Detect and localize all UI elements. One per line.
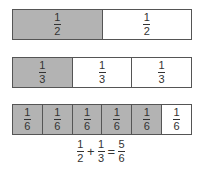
sixths-bar: 1 6 1 6 1 6 1 6 1 6 1: [12, 104, 192, 135]
denominator: 6: [119, 153, 125, 164]
numerator: 1: [159, 60, 165, 71]
fraction-b: 1 3: [98, 139, 105, 164]
fraction: 1 3: [99, 60, 106, 85]
denominator: 2: [54, 26, 60, 37]
denominator: 2: [144, 26, 150, 37]
sixth-cell-shaded: 1 6: [102, 105, 132, 134]
fraction: 1 2: [54, 12, 61, 37]
fraction: 1 6: [54, 107, 61, 132]
fraction-result: 5 6: [118, 139, 125, 164]
fraction: 1 6: [173, 107, 180, 132]
halves-bar: 1 2 1 2: [12, 9, 192, 40]
numerator: 1: [54, 107, 60, 118]
fraction: 1 6: [113, 107, 120, 132]
numerator: 1: [77, 139, 83, 150]
denominator: 6: [84, 121, 90, 132]
fraction: 1 6: [84, 107, 91, 132]
third-cell: 1 3: [132, 58, 191, 87]
thirds-bar: 1 3 1 3 1 3: [12, 57, 192, 88]
denominator: 6: [144, 121, 150, 132]
denominator: 6: [54, 121, 60, 132]
denominator: 6: [114, 121, 120, 132]
denominator: 6: [173, 121, 179, 132]
equals-sign: =: [108, 144, 116, 159]
numerator: 1: [99, 60, 105, 71]
fraction: 1 6: [143, 107, 150, 132]
plus-sign: +: [87, 144, 95, 159]
sixth-cell-shaded: 1 6: [13, 105, 43, 134]
third-cell: 1 3: [73, 58, 133, 87]
sixth-cell-shaded: 1 6: [43, 105, 73, 134]
denominator: 6: [24, 121, 30, 132]
sixth-cell-shaded: 1 6: [73, 105, 103, 134]
fraction: 1 2: [143, 12, 150, 37]
third-cell-shaded: 1 3: [13, 58, 73, 87]
denominator: 3: [39, 74, 45, 85]
numerator: 5: [119, 139, 125, 150]
sixth-cell-shaded: 1 6: [132, 105, 162, 134]
numerator: 1: [114, 107, 120, 118]
fraction: 1 3: [39, 60, 46, 85]
fraction: 1 3: [158, 60, 165, 85]
denominator: 3: [99, 74, 105, 85]
numerator: 1: [144, 107, 150, 118]
numerator: 1: [144, 12, 150, 23]
fraction: 1 6: [24, 107, 31, 132]
equation: 1 2 + 1 3 = 5 6: [0, 139, 202, 164]
numerator: 1: [84, 107, 90, 118]
denominator: 3: [98, 153, 104, 164]
sixth-cell: 1 6: [162, 105, 191, 134]
numerator: 1: [24, 107, 30, 118]
half-cell-shaded: 1 2: [13, 10, 103, 39]
numerator: 1: [39, 60, 45, 71]
half-cell: 1 2: [103, 10, 192, 39]
denominator: 3: [159, 74, 165, 85]
denominator: 2: [77, 153, 83, 164]
numerator: 1: [173, 107, 179, 118]
numerator: 1: [54, 12, 60, 23]
numerator: 1: [98, 139, 104, 150]
fraction-a: 1 2: [77, 139, 84, 164]
